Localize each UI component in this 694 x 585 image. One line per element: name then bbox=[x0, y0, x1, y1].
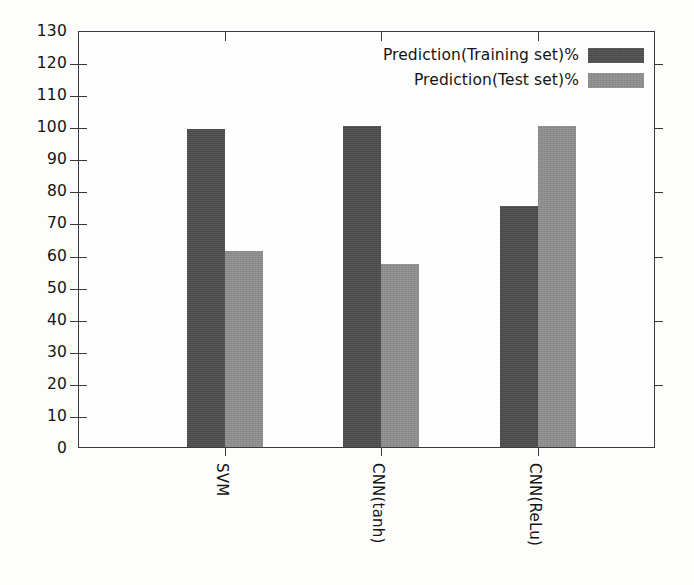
y-axis-tick-inner bbox=[79, 353, 87, 354]
y-axis-right-tick bbox=[654, 64, 663, 65]
y-axis-tick bbox=[70, 96, 79, 97]
y-axis-label: 90 bbox=[47, 153, 67, 169]
y-axis-tick-inner bbox=[79, 160, 87, 161]
y-axis-tick-inner bbox=[79, 417, 87, 418]
y-axis-tick bbox=[70, 160, 79, 161]
y-axis-tick bbox=[70, 64, 79, 65]
y-axis-right-tick bbox=[654, 385, 663, 386]
x-axis-label: CNN(ReLu) bbox=[526, 463, 544, 546]
x-axis-label: SVM bbox=[213, 463, 231, 496]
y-axis-tick-inner bbox=[79, 224, 87, 225]
x-axis-tick-top bbox=[225, 32, 226, 41]
bar-test bbox=[538, 126, 576, 447]
legend-item: Prediction(Training set)% bbox=[383, 46, 644, 64]
y-axis-label: 50 bbox=[47, 281, 67, 297]
y-axis-tick bbox=[70, 224, 79, 225]
bar-training bbox=[343, 126, 381, 447]
bar-test bbox=[381, 264, 419, 447]
x-axis-label: CNN(tanh) bbox=[369, 463, 387, 544]
y-axis-tick-inner bbox=[79, 96, 87, 97]
y-axis-tick bbox=[70, 353, 79, 354]
y-axis-label: 30 bbox=[47, 345, 67, 361]
x-axis-tick bbox=[538, 447, 539, 456]
x-axis-tick-top bbox=[381, 32, 382, 41]
y-axis-right-tick bbox=[654, 192, 663, 193]
x-axis-tick bbox=[225, 447, 226, 456]
y-axis-right-tick bbox=[654, 128, 663, 129]
y-axis-tick bbox=[70, 385, 79, 386]
y-axis-label: 40 bbox=[47, 313, 67, 329]
y-axis-right-tick bbox=[654, 257, 663, 258]
y-axis-tick-inner bbox=[79, 385, 87, 386]
y-axis-tick-inner bbox=[79, 289, 87, 290]
y-axis-tick bbox=[70, 417, 79, 418]
bar-test bbox=[225, 251, 263, 447]
y-axis-tick bbox=[70, 257, 79, 258]
plot-area: 0102030405060708090100110120130 SVMCNN(t… bbox=[78, 31, 655, 448]
y-axis-tick-inner bbox=[79, 64, 87, 65]
legend-label: Prediction(Training set)% bbox=[383, 46, 579, 64]
y-axis-right-tick bbox=[654, 321, 663, 322]
bar-training bbox=[500, 206, 538, 447]
y-axis-tick bbox=[70, 192, 79, 193]
y-axis-label: 80 bbox=[47, 185, 67, 201]
y-axis-tick bbox=[70, 289, 79, 290]
y-axis-label: 70 bbox=[47, 217, 67, 233]
chart-legend: Prediction(Training set)%Prediction(Test… bbox=[383, 46, 644, 89]
x-axis-tick-top bbox=[538, 32, 539, 41]
y-axis-label: 110 bbox=[37, 88, 67, 104]
x-axis-tick bbox=[381, 447, 382, 456]
bar-chart-figure: 0102030405060708090100110120130 SVMCNN(t… bbox=[0, 0, 694, 585]
bar-training bbox=[187, 129, 225, 447]
y-axis-tick-inner bbox=[79, 257, 87, 258]
y-axis-label: 100 bbox=[37, 120, 67, 136]
legend-swatch-test bbox=[588, 73, 644, 88]
y-axis-tick-inner bbox=[79, 128, 87, 129]
y-axis-tick-inner bbox=[79, 192, 87, 193]
y-axis-tick-inner bbox=[79, 321, 87, 322]
y-axis-label: 120 bbox=[37, 56, 67, 72]
y-axis-label: 0 bbox=[57, 441, 67, 457]
legend-label: Prediction(Test set)% bbox=[414, 71, 579, 89]
legend-swatch-train bbox=[588, 48, 644, 63]
y-axis-label: 130 bbox=[37, 24, 67, 40]
y-axis-label: 10 bbox=[47, 409, 67, 425]
y-axis-tick bbox=[70, 128, 79, 129]
legend-item: Prediction(Test set)% bbox=[414, 71, 644, 89]
y-axis-tick bbox=[70, 321, 79, 322]
y-axis-label: 60 bbox=[47, 249, 67, 265]
y-axis-label: 20 bbox=[47, 377, 67, 393]
